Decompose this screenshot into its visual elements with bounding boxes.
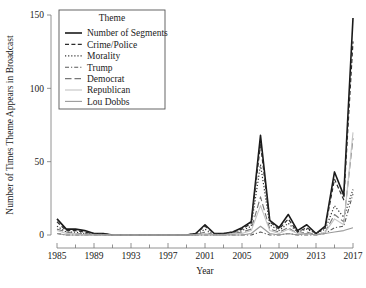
legend-label-democrat: Democrat xyxy=(87,74,125,84)
x-tick-label: 1989 xyxy=(85,251,104,261)
y-tick-label: 100 xyxy=(30,84,45,94)
y-tick-label: 150 xyxy=(30,10,45,20)
x-tick-label: 1993 xyxy=(122,251,141,261)
legend-label-crime-police: Crime/Police xyxy=(87,40,137,50)
legend-title: Theme xyxy=(99,13,125,23)
y-axis: 050100150Number of Times Theme Appears i… xyxy=(5,10,51,240)
x-tick-label: 1985 xyxy=(48,251,67,261)
y-tick-label: 0 xyxy=(39,230,44,240)
x-tick-label: 2017 xyxy=(344,251,363,261)
legend-label-morality: Morality xyxy=(87,51,120,61)
x-tick-label: 1997 xyxy=(159,251,178,261)
legend-label-trump: Trump xyxy=(87,63,113,73)
y-axis-title: Number of Times Theme Appears in Broadca… xyxy=(5,35,15,215)
legend: ThemeNumber of SegmentsCrime/PoliceMoral… xyxy=(59,10,168,109)
x-tick-label: 2013 xyxy=(307,251,326,261)
chart-container: 050100150Number of Times Theme Appears i… xyxy=(0,0,366,288)
x-axis: 198519891993199720012005200920132017Year xyxy=(48,243,363,276)
series-line-republican xyxy=(57,132,353,235)
x-axis-title: Year xyxy=(196,266,214,276)
x-tick-label: 2009 xyxy=(270,251,289,261)
x-tick-label: 2005 xyxy=(233,251,252,261)
legend-label-number-of-segments: Number of Segments xyxy=(87,28,168,38)
legend-label-republican: Republican xyxy=(87,85,131,95)
y-tick-label: 50 xyxy=(35,157,45,167)
series-line-democrat xyxy=(57,138,353,235)
legend-label-lou-dobbs: Lou Dobbs xyxy=(87,97,130,107)
x-tick-label: 2001 xyxy=(196,251,215,261)
line-chart: 050100150Number of Times Theme Appears i… xyxy=(0,0,366,288)
